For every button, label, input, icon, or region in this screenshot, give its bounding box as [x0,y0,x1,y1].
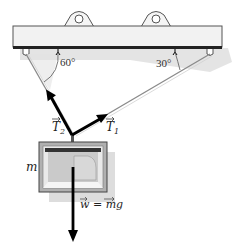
lifting-lug-left [64,12,94,28]
svg-text:2: 2 [59,127,65,136]
label-weight: w = mg [80,197,123,211]
label-mass: m [26,160,37,174]
label-t1: T 1 [106,117,119,136]
hanging-mass-diagram: 60° 30° T 2 T 1 m w = mg [0,0,235,244]
tension-t1-vector [72,119,100,135]
svg-text:1: 1 [114,127,119,136]
weight-vector-arrowhead [68,230,78,242]
angle-label-left: 60° [60,56,75,68]
lifting-lug-right [141,12,171,28]
ceiling-beam [13,26,222,49]
angle-label-right: 30° [156,57,171,69]
